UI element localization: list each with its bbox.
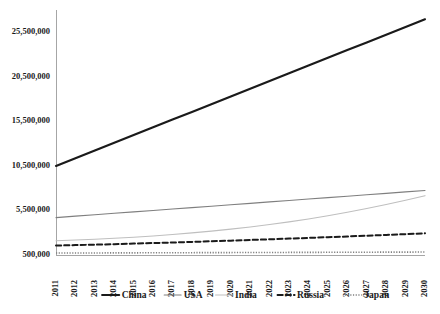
- x-axis-tick-label: 2022: [264, 280, 274, 297]
- series-line-india: [56, 196, 425, 241]
- x-axis-tick-label: 2016: [147, 280, 157, 297]
- plot-axes: [56, 10, 425, 255]
- x-axis-tick-label: 2011: [50, 280, 60, 297]
- series-line-russia: [56, 233, 425, 245]
- legend-label-india: India: [235, 290, 257, 300]
- line-chart: 500,0005,500,00010,500,00015,500,00020,5…: [0, 0, 440, 314]
- y-axis-tick-label: 5,500,000: [16, 204, 50, 214]
- x-axis-tick-label: 2013: [89, 280, 99, 297]
- x-axis-tick-label: 2019: [205, 280, 215, 297]
- chart-canvas: 500,0005,500,00010,500,00015,500,00020,5…: [0, 0, 440, 314]
- x-axis-tick-label: 2012: [69, 280, 79, 297]
- series-line-china: [56, 19, 425, 166]
- y-axis-tick-label: 15,500,000: [12, 115, 50, 125]
- x-axis-tick-label: 2030: [419, 280, 429, 297]
- y-axis-tick-label: 25,500,000: [12, 26, 50, 36]
- y-axis-tick-label: 500,000: [22, 249, 50, 259]
- legend-label-china: China: [122, 290, 147, 300]
- legend-label-usa: USA: [184, 290, 203, 300]
- x-axis-tick-label: 2029: [400, 280, 410, 297]
- legend-label-japan: Japan: [364, 290, 390, 300]
- series-line-usa: [56, 191, 425, 218]
- y-axis-tick-label: 20,500,000: [12, 71, 50, 81]
- y-axis-tick-label: 10,500,000: [12, 160, 50, 170]
- y-axis-tick-labels: 500,0005,500,00010,500,00015,500,00020,5…: [12, 26, 50, 259]
- data-series-group: [56, 19, 425, 253]
- legend-label-russia: Russia: [297, 290, 324, 300]
- series-line-japan: [56, 252, 425, 253]
- x-axis-tick-label: 2017: [166, 279, 176, 297]
- x-axis-tick-label: 2026: [341, 280, 351, 297]
